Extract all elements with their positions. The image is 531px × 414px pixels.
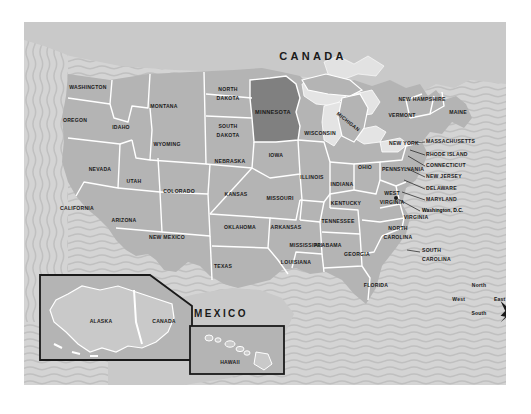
map-canvas: WASHINGTON OREGON IDAHO MONTANA WYOMING … xyxy=(24,22,506,385)
svg-text:CAROLINA: CAROLINA xyxy=(422,256,451,262)
svg-text:ARIZONA: ARIZONA xyxy=(112,217,137,223)
svg-text:HAWAII: HAWAII xyxy=(220,359,240,365)
svg-text:SOUTH: SOUTH xyxy=(218,123,237,129)
svg-text:MINNESOTA: MINNESOTA xyxy=(255,109,291,115)
hawaii-inset: HAWAII xyxy=(190,326,284,374)
svg-text:NEW HAMPSHIRE: NEW HAMPSHIRE xyxy=(398,96,445,102)
svg-text:PENNSYLVANIA: PENNSYLVANIA xyxy=(382,166,424,172)
label-mexico: MEXICO xyxy=(194,308,248,319)
svg-text:OHIO: OHIO xyxy=(358,164,372,170)
svg-text:MASSACHUSETTS: MASSACHUSETTS xyxy=(426,138,475,144)
svg-text:VIRGINIA: VIRGINIA xyxy=(404,214,429,220)
label-canada: CANADA xyxy=(279,50,346,62)
svg-text:North: North xyxy=(472,282,486,288)
svg-text:OKLAHOMA: OKLAHOMA xyxy=(224,224,256,230)
svg-text:GEORGIA: GEORGIA xyxy=(344,251,370,257)
svg-text:UTAH: UTAH xyxy=(127,178,142,184)
svg-text:ALABAMA: ALABAMA xyxy=(314,242,342,248)
svg-text:TEXAS: TEXAS xyxy=(214,263,233,269)
svg-text:IDAHO: IDAHO xyxy=(112,124,130,130)
svg-text:MAINE: MAINE xyxy=(449,109,467,115)
svg-text:NORTH: NORTH xyxy=(218,86,237,92)
svg-text:FLORIDA: FLORIDA xyxy=(364,282,388,288)
svg-text:DAKOTA: DAKOTA xyxy=(217,132,240,138)
svg-text:KENTUCKY: KENTUCKY xyxy=(331,200,362,206)
dc-marker-icon xyxy=(394,196,398,200)
svg-text:TENNESSEE: TENNESSEE xyxy=(321,218,354,224)
svg-text:NEW JERSEY: NEW JERSEY xyxy=(426,173,462,179)
svg-text:DAKOTA: DAKOTA xyxy=(217,95,240,101)
svg-text:NEBRASKA: NEBRASKA xyxy=(215,158,246,164)
svg-text:SOUTH: SOUTH xyxy=(422,247,441,253)
svg-text:LOUISIANA: LOUISIANA xyxy=(281,259,311,265)
svg-text:NEW YORK: NEW YORK xyxy=(389,140,419,146)
svg-text:RHODE ISLAND: RHODE ISLAND xyxy=(426,151,468,157)
label-washington-dc: Washington, D.C. xyxy=(422,207,464,213)
svg-text:NEW MEXICO: NEW MEXICO xyxy=(149,234,185,240)
svg-text:WISCONSIN: WISCONSIN xyxy=(304,130,336,136)
svg-text:East: East xyxy=(494,296,505,302)
svg-text:WASHINGTON: WASHINGTON xyxy=(69,84,107,90)
svg-text:CONNECTICUT: CONNECTICUT xyxy=(426,162,466,168)
us-map-figure: WASHINGTON OREGON IDAHO MONTANA WYOMING … xyxy=(24,22,506,385)
svg-text:ALASKA: ALASKA xyxy=(90,318,113,324)
svg-text:CALIFORNIA: CALIFORNIA xyxy=(60,205,94,211)
svg-text:DELAWARE: DELAWARE xyxy=(426,185,457,191)
svg-text:COLORADO: COLORADO xyxy=(163,188,195,194)
svg-text:ARKANSAS: ARKANSAS xyxy=(271,224,302,230)
svg-text:WYOMING: WYOMING xyxy=(153,141,180,147)
svg-text:MONTANA: MONTANA xyxy=(150,103,177,109)
svg-text:CANADA: CANADA xyxy=(152,318,176,324)
svg-text:West: West xyxy=(452,296,465,302)
svg-text:KANSAS: KANSAS xyxy=(224,191,247,197)
svg-text:NEVADA: NEVADA xyxy=(89,166,112,172)
svg-text:OREGON: OREGON xyxy=(63,117,87,123)
svg-text:IOWA: IOWA xyxy=(269,152,284,158)
svg-text:WEST: WEST xyxy=(384,190,400,196)
svg-text:VERMONT: VERMONT xyxy=(388,112,416,118)
svg-text:NORTH: NORTH xyxy=(388,225,407,231)
svg-text:INDIANA: INDIANA xyxy=(331,181,354,187)
svg-text:CAROLINA: CAROLINA xyxy=(384,234,413,240)
svg-text:MARYLAND: MARYLAND xyxy=(426,196,457,202)
svg-text:MISSOURI: MISSOURI xyxy=(266,195,294,201)
svg-text:South: South xyxy=(471,310,486,316)
svg-text:ILLINOIS: ILLINOIS xyxy=(300,174,324,180)
